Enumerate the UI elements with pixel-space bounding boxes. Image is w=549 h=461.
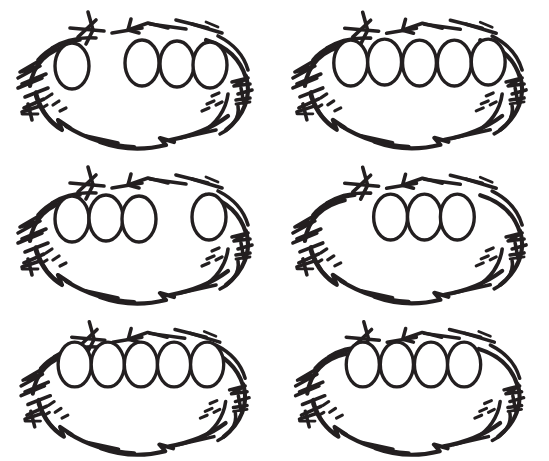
nest-panel [275, 310, 549, 461]
egg [334, 40, 368, 86]
egg [471, 39, 505, 85]
egg-group [58, 342, 224, 387]
egg [346, 342, 379, 387]
egg [448, 342, 481, 387]
egg [58, 342, 91, 387]
egg [380, 342, 413, 387]
egg [160, 41, 194, 87]
egg-group [55, 194, 226, 242]
egg [157, 342, 190, 387]
nest-panel [0, 0, 275, 155]
egg [414, 342, 447, 387]
egg [125, 40, 159, 86]
egg-group [374, 194, 475, 240]
egg [408, 194, 442, 240]
egg [192, 194, 226, 240]
egg [374, 194, 408, 240]
nest-panel [275, 155, 549, 310]
egg [193, 42, 227, 88]
nest-drawing [0, 0, 275, 155]
nest-panel-grid [0, 0, 549, 461]
egg [437, 40, 471, 86]
egg [368, 39, 402, 85]
nest-panel [0, 310, 275, 461]
egg [55, 43, 89, 89]
egg-group [55, 40, 227, 89]
nest-structure [296, 322, 524, 455]
nest-drawing [0, 155, 275, 310]
egg [55, 196, 89, 242]
egg [89, 195, 123, 241]
nest-structure [293, 167, 526, 303]
egg [122, 196, 156, 242]
nest-drawing [275, 310, 549, 461]
nest-panel [0, 155, 275, 310]
egg [124, 342, 157, 387]
nest-drawing [0, 310, 275, 461]
nest-panel [275, 0, 549, 155]
egg [91, 342, 124, 387]
egg-group [334, 39, 505, 86]
nest-structure [21, 322, 249, 455]
egg [191, 342, 224, 387]
egg-group [346, 342, 480, 387]
nest-drawing [275, 155, 549, 310]
nest-drawing [275, 0, 549, 155]
egg [403, 40, 437, 86]
egg [440, 194, 474, 240]
